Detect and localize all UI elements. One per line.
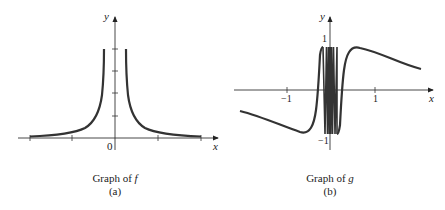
g-x-label: x xyxy=(429,92,434,104)
caption-b-prefix: Graph of xyxy=(306,172,348,184)
g-x-tick-pos1: 1 xyxy=(373,93,378,104)
f-x-label: x xyxy=(213,140,218,152)
caption-a: Graph of f (a) xyxy=(55,172,175,197)
g-x-tick-neg1: −1 xyxy=(281,93,292,104)
f-y-label: y xyxy=(104,10,109,22)
f-curve-right xyxy=(126,49,201,137)
caption-a-prefix: Graph of xyxy=(92,172,134,184)
caption-b-label: (b) xyxy=(270,185,390,197)
g-curve-oscillation xyxy=(323,47,337,134)
g-curve-right-tail xyxy=(337,47,421,134)
g-y-tick-pos1: 1 xyxy=(322,33,327,44)
caption-a-label: (a) xyxy=(55,185,175,197)
f-origin-label: 0 xyxy=(107,140,113,152)
graph-g-panel xyxy=(234,17,433,150)
caption-b-fn: g xyxy=(348,172,354,184)
g-y-tick-neg1: −1 xyxy=(318,135,329,146)
caption-a-fn: f xyxy=(135,172,138,184)
f-curve-left xyxy=(30,49,104,137)
caption-b: Graph of g (b) xyxy=(270,172,390,197)
g-y-label: y xyxy=(320,10,325,22)
graph-f-panel xyxy=(18,17,218,150)
